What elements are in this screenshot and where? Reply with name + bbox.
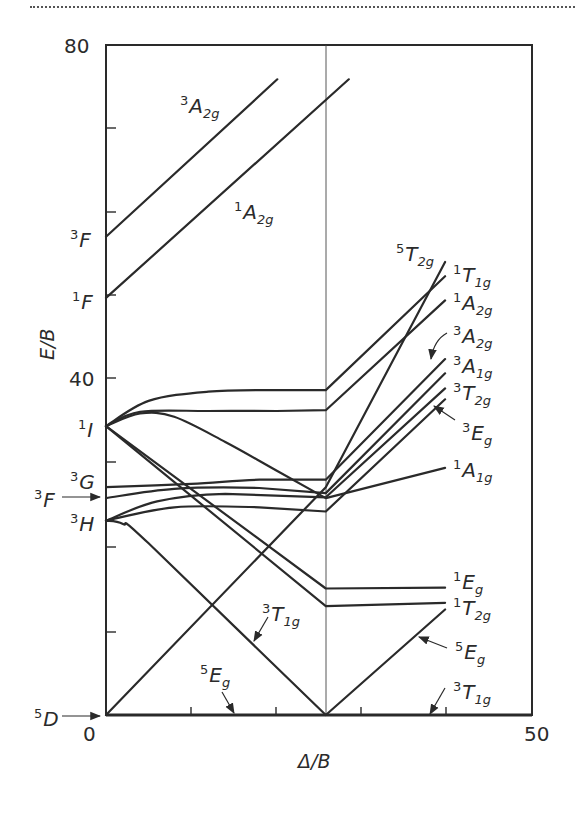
term-3F-lower: 3F: [34, 488, 55, 510]
arrow-3T1g-right: [430, 688, 445, 714]
label-3A1g: 3A1g: [453, 354, 493, 380]
curve-1t1g: [106, 276, 445, 426]
label-1T1g: 1T1g: [453, 263, 491, 289]
curve-3t2g: [106, 388, 445, 520]
x-tick-0: 0: [83, 724, 96, 744]
label-1A2g-upper: 1A2g: [234, 200, 274, 226]
label-5Eg-right: 5Eg: [455, 640, 485, 666]
label-5Eg-middle: 5Eg: [200, 663, 230, 689]
label-1T2g: 1T2g: [453, 596, 491, 622]
y-axis-ticks: [106, 128, 116, 632]
label-3Eg: 3Eg: [462, 421, 492, 447]
arrow-5Eg-right: [419, 637, 447, 648]
arrow-5Eg-middle: [222, 692, 234, 713]
curve-1t2g: [106, 426, 445, 606]
curve-1a2g-upper-: [106, 79, 349, 298]
label-3T1g-right: 3T1g: [453, 680, 491, 706]
term-1I: 1I: [78, 418, 93, 440]
curve-1a2g: [106, 300, 445, 426]
label-5T2g: 5T2g: [396, 242, 434, 268]
label-3T1g-middle: 3T1g: [262, 602, 300, 628]
term-3H: 3H: [70, 512, 94, 534]
term-3G: 3G: [70, 470, 95, 492]
label-3A2g-upper: 3A2g: [180, 94, 220, 120]
y-tick-80: 80: [64, 36, 89, 56]
term-5D: 5D: [34, 707, 59, 729]
label-3T2g: 3T2g: [453, 381, 491, 407]
x-axis-title: Δ/B: [298, 750, 330, 772]
label-3A2g-right: 3A2g: [453, 324, 493, 350]
term-1F: 1F: [72, 290, 93, 312]
x-tick-50: 50: [524, 724, 549, 744]
arrow-3Eg-right: [434, 406, 455, 420]
y-tick-40: 40: [69, 369, 94, 389]
label-1A1g: 1A1g: [453, 458, 493, 484]
y-axis-title: E/B: [36, 329, 58, 360]
arrow-3A2g-right: [431, 333, 447, 359]
term-3F-upper: 3F: [70, 228, 91, 250]
label-1Eg: 1Eg: [453, 570, 483, 596]
label-1A2g-right: 1A2g: [453, 291, 493, 317]
